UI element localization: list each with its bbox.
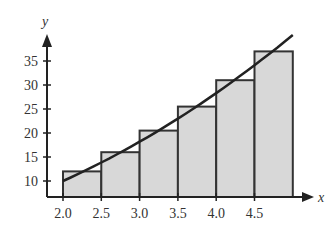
bar-5: [216, 80, 254, 197]
y-tick-label: 35: [24, 54, 38, 69]
bar-6: [255, 51, 293, 197]
bar-1: [63, 171, 101, 197]
riemann-sum-chart: x y 2.02.53.03.54.04.5 101520253035: [0, 0, 336, 236]
x-tick-label: 4.0: [207, 206, 225, 221]
y-tick-label: 10: [24, 174, 38, 189]
y-axis-arrow-icon: [42, 34, 52, 47]
y-tick-label: 15: [24, 150, 38, 165]
x-tick-label: 4.5: [246, 206, 264, 221]
bar-4: [178, 107, 216, 197]
y-tick-label: 30: [24, 78, 38, 93]
x-tick-label: 3.0: [131, 206, 149, 221]
y-tick-label: 25: [24, 102, 38, 117]
x-axis-arrow-icon: [302, 192, 314, 202]
x-tick-label: 2.0: [54, 206, 72, 221]
y-axis-label: y: [40, 14, 49, 29]
x-axis-label: x: [317, 190, 325, 205]
x-tick-label: 2.5: [93, 206, 111, 221]
y-tick-label: 20: [24, 126, 38, 141]
bar-3: [140, 131, 178, 197]
bars: [63, 51, 293, 197]
x-tick-label: 3.5: [169, 206, 187, 221]
